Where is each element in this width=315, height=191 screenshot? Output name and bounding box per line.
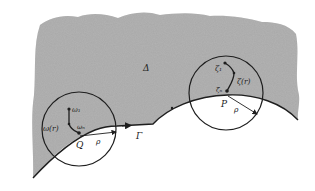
label-rho-right: ρ [233, 105, 239, 114]
point-omega-n [77, 131, 81, 135]
point-omega-1 [67, 107, 70, 110]
point-zeta-n [225, 89, 229, 93]
diagram-canvas: Δ Γ ω₁ ω(r) ωₙ Q ρ ζ₁ ζ(r) ζₙ P ρ [0, 0, 315, 191]
region-label-delta: Δ [142, 63, 150, 73]
label-zeta-n: ζₙ [216, 86, 223, 94]
right-radius-arrow [228, 96, 257, 114]
label-zeta-r: ζ(r) [237, 77, 251, 86]
point-omega-r [68, 123, 71, 126]
label-Q: Q [76, 140, 84, 150]
label-omega-r: ω(r) [43, 124, 59, 133]
label-rho-left: ρ [95, 137, 101, 146]
point-zeta-r [233, 72, 236, 75]
label-zeta-1: ζ₁ [215, 64, 222, 73]
label-omega-1: ω₁ [72, 106, 81, 114]
boundary-tick-dot [171, 107, 173, 109]
boundary-label-gamma: Γ [135, 131, 143, 141]
label-omega-n: ωₙ [77, 123, 85, 131]
label-P: P [220, 99, 228, 109]
shaded-region-delta [32, 12, 299, 178]
point-zeta-1 [223, 61, 226, 64]
